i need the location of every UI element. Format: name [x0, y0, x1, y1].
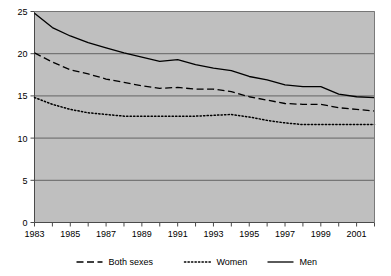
- x-tick-label-1999: 1999: [311, 229, 331, 239]
- plot-background: [35, 12, 375, 223]
- x-tick-label-1989: 1989: [132, 229, 152, 239]
- plot-area-background: [35, 12, 375, 223]
- x-tick-label-1991: 1991: [168, 229, 188, 239]
- x-tick-label-1997: 1997: [275, 229, 295, 239]
- y-tick-label-0: 0: [22, 218, 27, 228]
- legend-label: Women: [217, 257, 248, 267]
- chart-canvas: 0510152025 19831985198719891991199319951…: [0, 0, 391, 276]
- x-tick-label-1985: 1985: [60, 229, 80, 239]
- x-tick-label-1993: 1993: [203, 229, 223, 239]
- x-tick-label-1983: 1983: [24, 229, 44, 239]
- y-tick-label-25: 25: [17, 7, 27, 17]
- y-tick-label-5: 5: [22, 176, 27, 186]
- y-tick-label-10: 10: [17, 134, 27, 144]
- y-tick-label-20: 20: [17, 49, 27, 59]
- x-tick-label-2001: 2001: [347, 229, 367, 239]
- y-tick-label-15: 15: [17, 91, 27, 101]
- legend-label: Both sexes: [109, 257, 154, 267]
- x-tick-label-1987: 1987: [96, 229, 116, 239]
- legend-label: Men: [300, 257, 318, 267]
- line-chart: 0510152025 19831985198719891991199319951…: [0, 0, 391, 276]
- x-tick-label-1995: 1995: [239, 229, 259, 239]
